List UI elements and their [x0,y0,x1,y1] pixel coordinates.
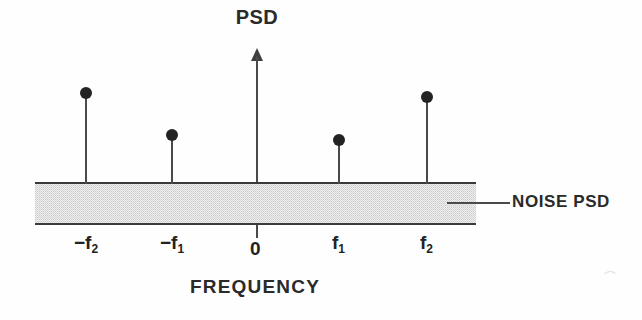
x-axis-title: FREQUENCY [120,276,390,298]
spectral-line-dot [80,87,92,99]
spectral-line-dot [421,91,433,103]
spectral-line-dot [166,129,178,141]
psd-frequency-figure: PSD −f2−f10f1f2 FREQUENCY NOISE PSD ⌒ [0,0,642,320]
spectral-line-dot [333,134,345,146]
x-axis-tick-zero: 0 [250,238,261,260]
scan-artifact: ⌒ [604,274,616,283]
x-axis-tick-pos-f2: f2 [420,232,433,254]
tick-subscript: 2 [426,242,433,256]
spectral-line-stem [171,135,173,184]
y-axis-title: PSD [196,6,318,29]
noise-psd-annotation: NOISE PSD [512,192,610,212]
x-axis-tick-pos-f1: f1 [332,232,345,254]
tick-subscript: 1 [177,242,184,256]
x-axis-tick-neg-f1: −f1 [160,232,184,254]
spectral-line-stem [85,93,87,184]
noise-psd-band [35,183,476,223]
noise-psd-leader-line [447,202,510,204]
tick-subscript: 2 [91,242,98,256]
spectral-line-stem [426,97,428,184]
spectral-line-stem [338,140,340,184]
x-axis-tick-neg-f2: −f2 [74,232,98,254]
tick-subscript: 1 [338,242,345,256]
noise-band-top-edge [35,182,476,184]
noise-band-bottom-edge [35,223,476,225]
